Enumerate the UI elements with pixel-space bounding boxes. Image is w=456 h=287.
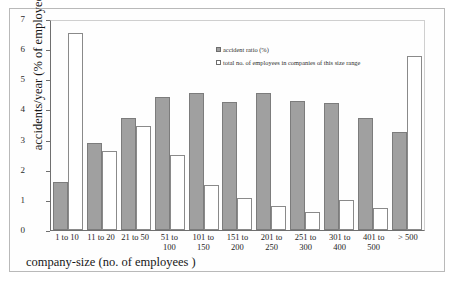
bar-accident-ratio [358, 118, 373, 230]
y-axis-tick-label: 0 [0, 226, 25, 235]
bar-group [155, 21, 185, 230]
x-axis-title: company-size (no. of employees ) [26, 255, 196, 270]
bar-group [256, 21, 286, 230]
bar-group [53, 21, 83, 230]
bar-group [392, 21, 422, 230]
bar-total-employees [305, 212, 320, 230]
y-axis-tick-mark [46, 231, 50, 232]
x-axis-tick-line: 300 [289, 243, 323, 253]
bar-accident-ratio [324, 103, 339, 231]
x-axis-tick-line: 250 [255, 243, 289, 253]
x-axis-tick-label: > 500 [391, 233, 425, 252]
y-axis-tick-label: 2 [0, 166, 25, 175]
y-axis-tick-label: 5 [0, 75, 25, 84]
bar-total-employees [170, 155, 185, 230]
plot-area: accident ratio (%) total no. of employee… [50, 20, 425, 231]
bar-accident-ratio [290, 101, 305, 230]
x-axis-tick-line: 1 to 10 [50, 233, 84, 243]
x-axis-tick-line: 100 [152, 243, 186, 253]
x-axis-tick-line: > 500 [391, 233, 425, 243]
bar-accident-ratio [121, 118, 136, 230]
bar-group [324, 21, 354, 230]
x-axis-tick-label: 51 to100 [152, 233, 186, 252]
bar-total-employees [237, 198, 252, 230]
y-axis-tick-label: 1 [0, 196, 25, 205]
bar-total-employees [68, 33, 83, 230]
x-axis-tick-label: 301 to400 [323, 233, 357, 252]
y-axis-tick-label: 7 [0, 15, 25, 24]
x-axis-tick-label: 151 to200 [220, 233, 254, 252]
bar-accident-ratio [87, 143, 102, 230]
y-axis-tick-label: 3 [0, 136, 25, 145]
bar-group [189, 21, 219, 230]
bar-total-employees [204, 185, 219, 230]
figure-caption [4, 276, 454, 285]
bar-accident-ratio [222, 102, 237, 230]
x-axis-tick-label: 201 to250 [255, 233, 289, 252]
bar-accident-ratio [256, 93, 271, 230]
bar-total-employees [271, 206, 286, 230]
x-axis-tick-label: 21 to 50 [118, 233, 152, 252]
bar-accident-ratio [189, 93, 204, 230]
x-axis-tick-label: 101 to150 [186, 233, 220, 252]
y-axis-tick-label: 6 [0, 45, 25, 54]
bar-group [87, 21, 117, 230]
x-axis-tick-line: 200 [220, 243, 254, 253]
y-axis-title: accidents/year (% of employees) [31, 0, 46, 154]
bar-accident-ratio [392, 132, 407, 230]
x-axis-tick-line: 11 to 20 [84, 233, 118, 243]
bar-group [290, 21, 320, 230]
x-axis-tick-label: 401 to500 [357, 233, 391, 252]
bar-total-employees [339, 200, 354, 230]
bar-total-employees [407, 56, 422, 230]
x-axis-tick-line: 400 [323, 243, 357, 253]
bar-total-employees [373, 208, 388, 230]
bar-group [121, 21, 151, 230]
x-axis-tick-line: 21 to 50 [118, 233, 152, 243]
figure-frame: accidents/year (% of employees) 01234567… [9, 8, 445, 272]
x-axis-tick-line: 150 [186, 243, 220, 253]
x-axis-tick-label: 1 to 10 [50, 233, 84, 252]
bar-group [358, 21, 388, 230]
bar-groups [51, 21, 424, 230]
bar-accident-ratio [155, 97, 170, 230]
x-axis-tick-line: 500 [357, 243, 391, 253]
bar-group [222, 21, 252, 230]
bar-accident-ratio [53, 182, 68, 230]
bar-total-employees [136, 126, 151, 230]
bar-total-employees [102, 151, 117, 230]
y-axis-tick-label: 4 [0, 105, 25, 114]
x-axis-ticks: 1 to 1011 to 2021 to 5051 to100101 to150… [50, 233, 425, 252]
x-axis-tick-label: 251 to300 [289, 233, 323, 252]
x-axis-tick-label: 11 to 20 [84, 233, 118, 252]
